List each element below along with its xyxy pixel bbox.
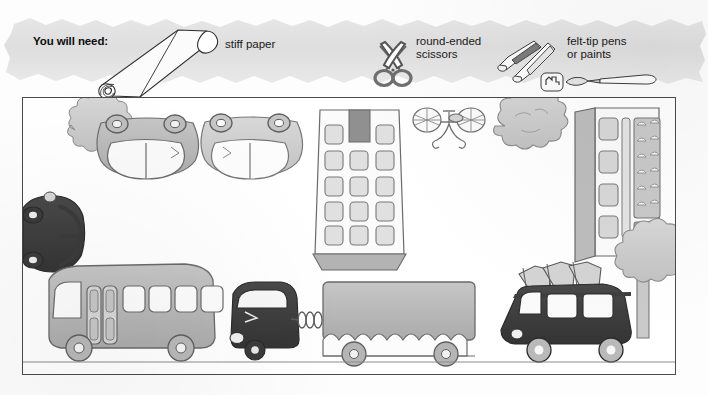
- illustration-panel: [22, 97, 676, 375]
- tree-top-right: [494, 98, 568, 149]
- paint-brush-icon: [566, 75, 656, 85]
- materials-banner: You will need: stiff paper round-ended s…: [0, 8, 708, 88]
- banner-icons: [0, 8, 708, 108]
- truck-cab: [230, 282, 322, 360]
- dark-car-left: [23, 192, 85, 272]
- scissors-icon: [375, 42, 411, 86]
- bicycle: [413, 108, 485, 148]
- van-with-luggage: [501, 262, 631, 362]
- bus: [49, 264, 223, 361]
- felt-tip-pens-icon: [498, 41, 563, 91]
- car-top-view-2: [201, 114, 303, 179]
- car-top-view-1: [97, 115, 199, 179]
- page-root: You will need: stiff paper round-ended s…: [0, 0, 708, 395]
- paper-roll-icon: [99, 30, 218, 98]
- apartment-block: [313, 110, 406, 270]
- trailer: [323, 282, 475, 366]
- street-scene-drawing: [23, 98, 675, 374]
